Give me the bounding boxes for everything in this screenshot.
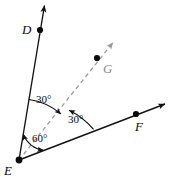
point-dot-E [16,157,23,164]
angle-diagram-figure: D G F E 30° 30° 60° [0,0,171,184]
angle-label-GEF: 30° [68,114,83,125]
point-label-G: G [103,62,112,75]
angle-label-DEG: 30° [36,94,51,105]
point-label-D: D [22,23,31,36]
point-dot-G [94,55,100,61]
point-dot-F [133,111,139,117]
point-label-E: E [4,164,12,177]
point-dot-D [37,27,43,33]
angle-label-DEF: 60° [32,133,47,144]
point-label-F: F [135,120,143,133]
